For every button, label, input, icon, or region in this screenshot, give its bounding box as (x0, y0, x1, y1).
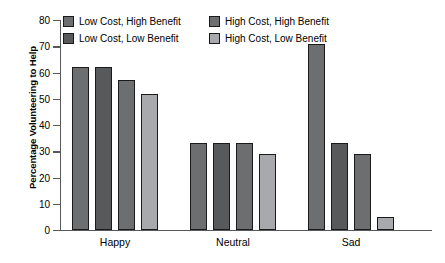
y-tick-label: 60 (39, 67, 50, 78)
legend-label: High Cost, Low Benefit (225, 34, 327, 44)
legend-item: Low Cost, High Benefit (63, 13, 205, 30)
bar-chart: Percentage Volunteering to Help 01020304… (0, 0, 445, 263)
legend-swatch-icon (209, 33, 220, 44)
legend-item: High Cost, Low Benefit (209, 30, 351, 47)
bar (141, 94, 158, 231)
y-tick-mark (53, 125, 60, 126)
bar (95, 67, 112, 230)
y-tick-label: 30 (39, 146, 50, 157)
bar (118, 80, 135, 230)
legend-label: Low Cost, High Benefit (79, 17, 181, 27)
bar (72, 67, 89, 230)
x-axis-group-label: Sad (342, 236, 361, 248)
x-axis-line (60, 230, 432, 231)
y-tick-label: 80 (39, 15, 50, 26)
y-tick-label: 40 (39, 120, 50, 131)
legend-item: High Cost, High Benefit (209, 13, 351, 30)
y-tick-mark (53, 99, 60, 100)
y-tick-mark (53, 178, 60, 179)
plot-area: 01020304050607080 HappyNeutralSad (60, 20, 432, 230)
legend-label: Low Cost, Low Benefit (79, 34, 179, 44)
legend-swatch-icon (63, 33, 74, 44)
bar (190, 143, 207, 230)
bar (236, 143, 253, 230)
bar (377, 217, 394, 230)
legend-label: High Cost, High Benefit (225, 17, 329, 27)
y-tick-label: 10 (39, 198, 50, 209)
y-tick-label: 50 (39, 93, 50, 104)
bar (213, 143, 230, 230)
y-tick-mark (53, 20, 60, 21)
y-tick-mark (53, 230, 60, 231)
bar (331, 143, 348, 230)
y-tick-label: 70 (39, 41, 50, 52)
legend-item: Low Cost, Low Benefit (63, 30, 205, 47)
y-axis-line (60, 20, 61, 230)
bar (354, 154, 371, 230)
y-tick-mark (53, 151, 60, 152)
x-axis-group-label: Happy (100, 236, 130, 248)
y-tick-label: 0 (44, 225, 50, 236)
y-tick-mark (53, 46, 60, 47)
y-tick-mark (53, 204, 60, 205)
y-tick-label: 20 (39, 172, 50, 183)
chart-legend: Low Cost, High BenefitHigh Cost, High Be… (63, 13, 351, 47)
bar (259, 154, 276, 230)
legend-swatch-icon (209, 16, 220, 27)
x-axis-group-label: Neutral (216, 236, 250, 248)
legend-swatch-icon (63, 16, 74, 27)
y-axis-title: Percentage Volunteering to Help (27, 25, 38, 211)
bar (308, 44, 325, 230)
y-tick-mark (53, 73, 60, 74)
